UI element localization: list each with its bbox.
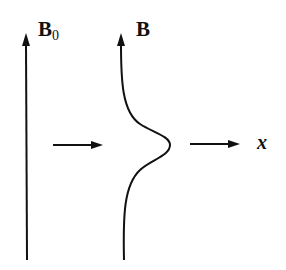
uniform-field-symbol: B: [38, 17, 52, 41]
uniform-field-label: B0: [38, 17, 59, 42]
arrowhead-up-icon: [22, 33, 30, 46]
field-diagram: B0 B x: [0, 0, 286, 270]
arrowhead-right-icon: [91, 141, 103, 149]
perturbed-field-label: B: [136, 17, 150, 42]
x-axis-symbol: x: [257, 131, 267, 153]
arrowhead-right-icon: [228, 140, 240, 148]
perturbed-field-symbol: B: [136, 17, 150, 41]
arrowhead-up-icon: [117, 33, 125, 46]
perturbed-field-line: [117, 33, 170, 260]
x-axis-arrow: [190, 140, 240, 148]
uniform-field-line: [22, 33, 30, 260]
uniform-field-subscript: 0: [52, 28, 59, 43]
x-axis-label: x: [257, 131, 267, 154]
transition-arrow: [53, 141, 103, 149]
